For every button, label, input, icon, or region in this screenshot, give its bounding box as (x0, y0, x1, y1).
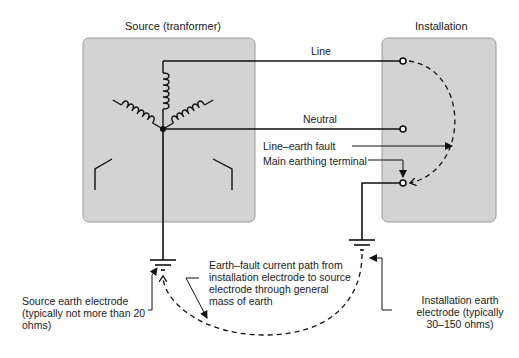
installation-earth-symbol-icon (349, 240, 375, 250)
source-electrode-arrow (148, 268, 157, 310)
installation-electrode-arrow (370, 258, 392, 310)
earth-path-arrow (186, 278, 207, 318)
earth-path-label: Earth–fault current path from installati… (209, 259, 351, 307)
line-label: Line (311, 45, 331, 57)
installation-title: Installation (415, 20, 468, 32)
neutral-label: Neutral (303, 113, 337, 125)
installation-electrode-label: Installation earth electrode (typically … (402, 294, 518, 330)
met-label: Main earthing terminal (263, 155, 367, 167)
source-earth-symbol-icon (150, 260, 176, 270)
line-earth-fault-label: Line–earth fault (263, 140, 335, 152)
neutral-terminal (400, 126, 406, 132)
source-box (83, 38, 255, 222)
installation-box (382, 38, 496, 222)
line-terminal (400, 58, 406, 64)
main-earthing-terminal (400, 180, 406, 186)
source-electrode-label: Source earth electrode (typically not mo… (22, 295, 145, 331)
source-title: Source (tranformer) (125, 20, 221, 32)
